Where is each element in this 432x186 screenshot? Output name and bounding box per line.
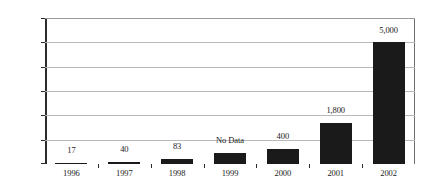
x-category-label-2001: 2001 <box>327 168 344 178</box>
y-tick-mark-3000 <box>41 91 45 92</box>
x-category-label-1998: 1998 <box>169 168 186 178</box>
bar-1996[interactable] <box>55 163 87 164</box>
y-tick-mark-1000 <box>41 140 45 141</box>
y-tick-mark-5000 <box>41 42 45 43</box>
x-category-label-1999: 1999 <box>222 168 239 178</box>
bar-slot-1999: No Data <box>204 18 257 164</box>
bar-2000[interactable] <box>267 149 299 164</box>
bar-series: 17 40 83 No Data 400 1,800 <box>45 18 415 164</box>
x-category-label-2002: 2002 <box>380 168 397 178</box>
bar-slot-2001: 1,800 <box>309 18 362 164</box>
x-tick-3 <box>204 164 205 168</box>
bar-2002[interactable] <box>373 42 405 164</box>
x-category-label-2000: 2000 <box>275 168 292 178</box>
bar-value-label-2002: 5,000 <box>379 25 398 35</box>
bar-value-label-1997: 40 <box>120 144 128 154</box>
bar-value-label-1999: No Data <box>216 135 244 145</box>
x-tick-4 <box>256 164 257 168</box>
bar-value-label-1996: 17 <box>67 145 75 155</box>
bar-chart: 17 40 83 No Data 400 1,800 <box>0 0 432 186</box>
bar-slot-1996: 17 <box>45 18 98 164</box>
bar-slot-1998: 83 <box>151 18 204 164</box>
y-tick-mark-2000 <box>41 115 45 116</box>
bar-slot-2000: 400 <box>256 18 309 164</box>
bar-slot-2002: 5,000 <box>362 18 415 164</box>
y-tick-mark-6000 <box>41 18 45 19</box>
y-tick-mark-0 <box>41 163 45 164</box>
x-category-label-1996: 1996 <box>63 168 80 178</box>
x-tick-2 <box>151 164 152 168</box>
bar-1998[interactable] <box>161 159 193 164</box>
x-category-label-1997: 1997 <box>116 168 133 178</box>
bar-value-label-2001: 1,800 <box>326 105 345 115</box>
x-tick-5 <box>309 164 310 168</box>
bar-1997[interactable] <box>108 162 140 164</box>
bar-value-label-1998: 83 <box>173 141 181 151</box>
bar-2001[interactable] <box>320 123 352 164</box>
x-tick-1 <box>98 164 99 168</box>
bar-1999[interactable] <box>214 153 246 164</box>
bar-value-label-2000: 400 <box>277 131 289 141</box>
plot-area: 17 40 83 No Data 400 1,800 <box>45 18 415 164</box>
x-tick-6 <box>362 164 363 168</box>
bar-slot-1997: 40 <box>98 18 151 164</box>
y-tick-mark-4000 <box>41 67 45 68</box>
